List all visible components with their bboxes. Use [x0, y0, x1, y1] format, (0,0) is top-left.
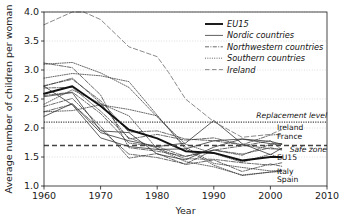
legend-label: EU15 [227, 19, 249, 29]
legend-label: Ireland [227, 65, 256, 75]
x-tick-label: 1960 [32, 190, 56, 201]
x-tick-label: 2010 [315, 190, 339, 201]
annotation-label: Ireland [277, 123, 303, 132]
y-tick-label: 3.5 [24, 35, 39, 46]
y-tick-label: 2.5 [24, 93, 39, 104]
chart-container: 1.01.52.02.53.03.54.0 196019701980199020… [0, 0, 339, 224]
y-tick-label: 2.0 [24, 122, 39, 133]
x-axis-title: Year [174, 205, 195, 216]
x-axis-ticks: 196019701980199020002010 [32, 186, 339, 201]
x-tick-label: 2000 [258, 190, 282, 201]
y-tick-label: 4.0 [24, 6, 39, 17]
fertility-line-chart: 1.01.52.02.53.03.54.0 196019701980199020… [0, 0, 339, 224]
annotation-label: Replacement level [256, 111, 328, 120]
annotation-label: EU15 [277, 153, 297, 162]
y-tick-label: 1.5 [24, 151, 39, 162]
annotation-label: Spain [277, 175, 298, 184]
y-tick-label: 3.0 [24, 64, 39, 75]
x-tick-label: 1990 [202, 190, 226, 201]
x-tick-label: 1980 [145, 190, 169, 201]
legend-label: Northwestern countries [227, 42, 324, 52]
legend-label: Nordic countries [227, 30, 295, 40]
x-tick-label: 1970 [89, 190, 113, 201]
y-axis-title: Average number of children per woman [3, 5, 14, 194]
legend-label: Southern countries [227, 53, 306, 63]
y-axis-ticks: 1.01.52.02.53.03.54.0 [24, 6, 44, 191]
annotation-label: France [277, 132, 303, 141]
